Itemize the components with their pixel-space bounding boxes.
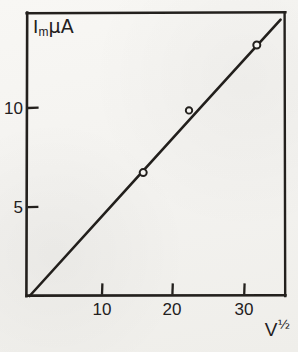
data-point-2	[186, 107, 192, 113]
x-axis-label-symbol: V	[265, 319, 278, 340]
y-tick-label-5: 5	[0, 198, 23, 218]
x-axis-label: V½	[265, 318, 290, 339]
y-axis-label-subscript: m	[38, 25, 48, 39]
x-tick-label-10: 10	[89, 300, 115, 320]
y-axis-label-unit: μA	[48, 15, 74, 37]
y-axis-label: ImμA	[33, 17, 74, 38]
y-tick-label-10: 10	[0, 99, 23, 119]
data-point-1	[140, 169, 147, 176]
x-tick-label-30: 30	[231, 300, 257, 320]
axis-right-spine	[285, 12, 286, 296]
x-tick-marks	[102, 283, 245, 294]
axis-top-spine	[27, 12, 286, 13]
data-point-3	[253, 42, 260, 49]
axis-left-spine	[26, 13, 27, 297]
plot-frame	[26, 12, 285, 296]
x-axis-label-superscript: ½	[277, 317, 290, 332]
x-tick-label-20: 20	[159, 300, 185, 320]
data-line-fit	[30, 20, 281, 296]
figure-panel: ImμA V½ 10 5 10 20 30	[0, 0, 298, 352]
y-tick-marks	[28, 108, 39, 208]
